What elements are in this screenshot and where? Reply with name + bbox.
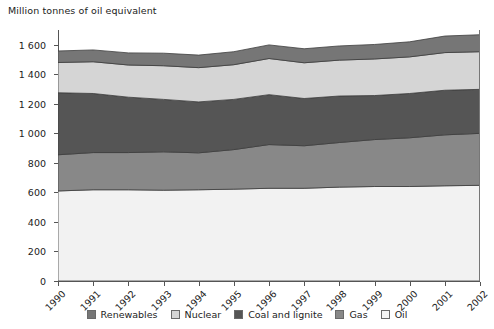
x-tick-mark bbox=[410, 282, 411, 286]
legend-label: Renewables bbox=[101, 309, 158, 320]
x-tick-mark bbox=[375, 282, 376, 286]
legend-swatch-icon bbox=[87, 310, 96, 319]
y-tick-mark bbox=[54, 192, 58, 193]
chart-axis-title: Million tonnes of oil equivalent bbox=[8, 5, 157, 16]
y-tick-label: 1 400 bbox=[19, 69, 46, 80]
y-tick-mark bbox=[54, 133, 58, 134]
y-tick-mark bbox=[54, 163, 58, 164]
legend-label: Coal and lignite bbox=[248, 309, 322, 320]
y-tick-mark bbox=[54, 251, 58, 252]
x-tick-mark bbox=[269, 282, 270, 286]
y-tick-mark bbox=[54, 74, 58, 75]
y-tick-label: 1 200 bbox=[19, 98, 46, 109]
x-tick-mark bbox=[480, 282, 481, 286]
y-tick-label: 1 600 bbox=[19, 39, 46, 50]
legend-item-nuclear[interactable]: Nuclear bbox=[171, 309, 222, 320]
y-tick-label: 600 bbox=[28, 187, 46, 198]
legend-item-renewables[interactable]: Renewables bbox=[87, 309, 158, 320]
y-tick-mark bbox=[54, 45, 58, 46]
y-tick-label: 200 bbox=[28, 246, 46, 257]
stacked-area-chart: Million tonnes of oil equivalent 0200400… bbox=[0, 0, 494, 329]
area-series-svg bbox=[58, 30, 480, 281]
chart-legend: RenewablesNuclearCoal and ligniteGasOil bbox=[0, 303, 494, 325]
x-tick-mark bbox=[93, 282, 94, 286]
legend-item-oil[interactable]: Oil bbox=[381, 309, 408, 320]
y-tick-mark bbox=[54, 281, 58, 282]
y-tick-mark bbox=[54, 104, 58, 105]
legend-item-gas[interactable]: Gas bbox=[335, 309, 367, 320]
legend-swatch-icon bbox=[381, 310, 390, 319]
y-tick-label: 800 bbox=[28, 157, 46, 168]
legend-swatch-icon bbox=[335, 310, 344, 319]
x-tick-mark bbox=[58, 282, 59, 286]
area-band-oil bbox=[58, 185, 480, 281]
y-axis: 02004006008001 0001 2001 4001 600 bbox=[0, 30, 54, 281]
legend-swatch-icon bbox=[171, 310, 180, 319]
y-tick-mark bbox=[54, 222, 58, 223]
legend-label: Nuclear bbox=[185, 309, 222, 320]
x-tick-mark bbox=[339, 282, 340, 286]
x-tick-mark bbox=[199, 282, 200, 286]
legend-swatch-icon bbox=[234, 310, 243, 319]
x-tick-mark bbox=[128, 282, 129, 286]
legend-label: Oil bbox=[395, 309, 408, 320]
x-tick-mark bbox=[164, 282, 165, 286]
plot-area bbox=[58, 30, 480, 281]
legend-item-coal-and-lignite[interactable]: Coal and lignite bbox=[234, 309, 322, 320]
y-tick-label: 0 bbox=[40, 276, 46, 287]
x-tick-mark bbox=[234, 282, 235, 286]
y-tick-label: 1 000 bbox=[19, 128, 46, 139]
y-tick-label: 400 bbox=[28, 216, 46, 227]
x-tick-mark bbox=[304, 282, 305, 286]
legend-label: Gas bbox=[349, 309, 367, 320]
x-tick-mark bbox=[445, 282, 446, 286]
